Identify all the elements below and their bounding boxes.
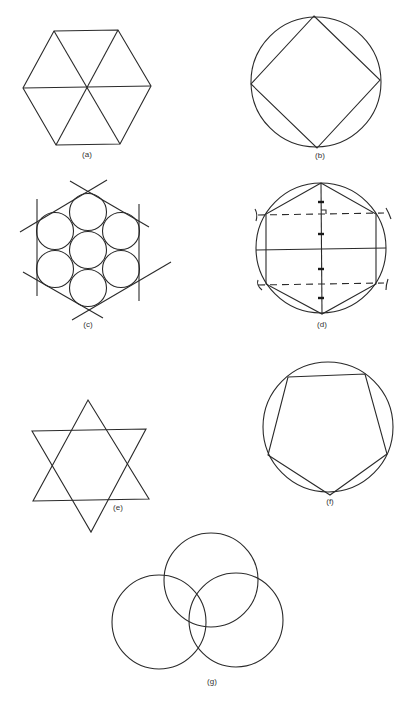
geometry-plate: (a) (b) (c)	[0, 0, 409, 703]
label-d: (d)	[317, 320, 327, 329]
label-c: (c)	[83, 320, 93, 329]
panel-g-three-circles: (g)	[112, 533, 283, 686]
panel-d-hexagon-construction: (d)	[255, 183, 391, 329]
panel-c-packed-circles: (c)	[20, 180, 171, 329]
label-a: (a)	[82, 150, 92, 159]
label-b: (b)	[315, 151, 325, 160]
label-g: (g)	[207, 677, 217, 686]
panel-b-square-in-circle: (b)	[251, 16, 381, 160]
label-e: (e)	[113, 503, 123, 512]
panel-f-pentagon-in-circle: (f)	[263, 362, 393, 506]
panel-a-hexagon: (a)	[23, 30, 151, 159]
label-f: (f)	[326, 497, 334, 506]
panel-e-star: (e)	[32, 400, 149, 532]
